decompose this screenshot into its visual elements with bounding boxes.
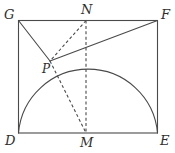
vertex-label-M: M	[80, 136, 93, 149]
segment-G-P	[19, 21, 51, 62]
figure-canvas	[0, 0, 175, 153]
vertex-label-G: G	[4, 8, 14, 21]
segment-P-F	[50, 21, 158, 62]
vertex-label-D: D	[5, 134, 15, 147]
semicircle-on-DE	[19, 69, 158, 133]
vertex-label-N: N	[81, 3, 92, 16]
vertex-label-E: E	[160, 134, 170, 147]
vertex-label-P: P	[42, 63, 50, 75]
rectangle-DEFG	[19, 21, 158, 134]
vertex-label-F: F	[161, 8, 170, 21]
geometry-figure: G N F P D M E	[0, 0, 175, 153]
segment-N-P	[50, 21, 86, 62]
